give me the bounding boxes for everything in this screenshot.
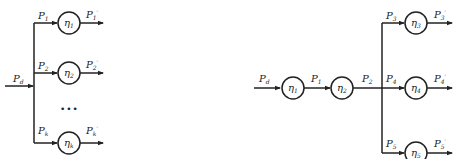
svg-text:P5′: P5′ bbox=[433, 138, 447, 150]
branch-1: P1 η1 P1′ bbox=[34, 9, 103, 34]
branch-in-label: P2 bbox=[37, 60, 49, 72]
branch-5: P5 η5 P5′ bbox=[382, 138, 452, 159]
series-parallel-diagram: Pd η1 P1 η2 P2 P3 η3 P3′ P4 η4 P4′ bbox=[254, 9, 452, 159]
svg-text:P3: P3 bbox=[385, 10, 397, 22]
branch-k: Pk ηk Pk′ bbox=[34, 125, 103, 154]
svg-text:P4′: P4′ bbox=[433, 73, 447, 85]
branch-in-label: Pk bbox=[37, 125, 49, 137]
branch-4: P4 η4 P4′ bbox=[382, 73, 452, 99]
branch-out-label: P1′ bbox=[85, 9, 99, 21]
input-label: Pd bbox=[12, 73, 24, 85]
svg-text:P4: P4 bbox=[385, 73, 397, 85]
diagram-canvas: Pd P1 η1 P1′ P2 η2 P2′ ••• Pk ηk bbox=[0, 0, 456, 159]
svg-text:P3′: P3′ bbox=[433, 9, 447, 21]
branch-out-label: Pk′ bbox=[85, 125, 98, 137]
branch-3: P3 η3 P3′ bbox=[382, 9, 452, 34]
svg-text:P5: P5 bbox=[385, 138, 397, 150]
svg-text:P1: P1 bbox=[310, 73, 322, 85]
branch-in-label: P1 bbox=[37, 10, 49, 22]
branch-out-label: P2′ bbox=[85, 59, 99, 71]
parallel-diagram: Pd P1 η1 P1′ P2 η2 P2′ ••• Pk ηk bbox=[5, 9, 103, 154]
branch-2: P2 η2 P2′ bbox=[34, 59, 103, 84]
ellipsis: ••• bbox=[60, 104, 79, 114]
input-label: Pd bbox=[258, 73, 270, 85]
svg-text:P2: P2 bbox=[361, 73, 373, 85]
